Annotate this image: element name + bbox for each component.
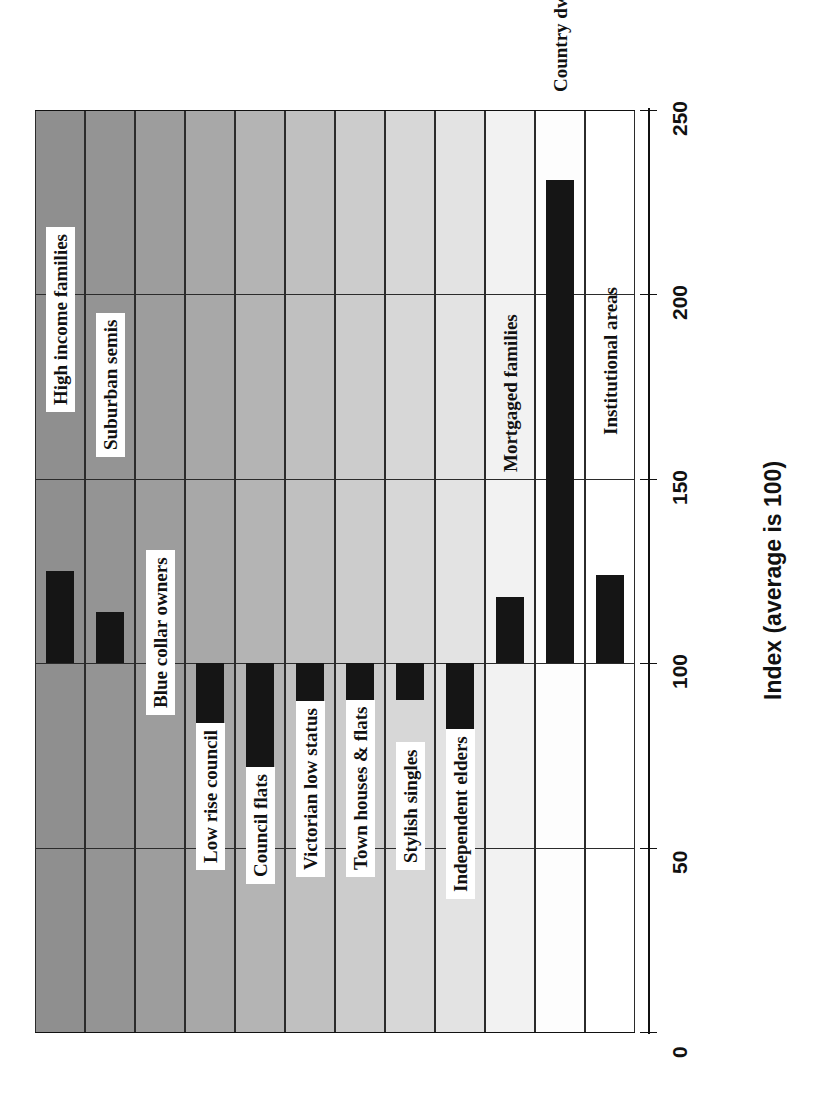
category-band [385,110,435,1032]
category-label-country-dwellers: Country dwellers [546,0,575,99]
category-band [285,110,335,1032]
tick-label-0: 0 [668,998,692,1058]
category-label-council-flats: Council flats [246,768,275,885]
category-label-low-rise-council: Low rise council [196,723,225,870]
category-label-institutional-areas: Institutional areas [596,280,625,442]
gridline-50 [35,848,635,849]
tick-mark-0 [640,1032,657,1033]
category-label-stylish-singles: Stylish singles [396,742,425,870]
category-label-town-houses-flats: Town houses & flats [346,700,375,877]
gridline-150 [35,479,635,480]
category-band [85,110,135,1032]
category-band [485,110,535,1032]
category-label-suburban-semis: Suburban semis [96,312,125,456]
bar-mortgaged-families [496,597,524,663]
bar-stylish-singles [396,663,424,700]
bar-high-income-families [46,571,74,663]
bar-country-dwellers [546,180,574,663]
bar-town-houses-flats [346,663,374,704]
chart-plot-area [35,110,635,1032]
tick-mark-50 [640,848,657,849]
category-band [335,110,385,1032]
category-label-victorian-low-status: Victorian low status [296,701,325,877]
gridline-200 [35,294,635,295]
tick-mark-150 [640,479,657,480]
category-label-mortgaged-families: Mortgaged families [496,307,525,479]
tick-label-200: 200 [668,260,692,320]
gridline-100 [35,663,635,664]
tick-label-150: 150 [668,445,692,505]
category-band [235,110,285,1032]
tick-mark-200 [640,294,657,295]
bar-institutional-areas [596,575,624,664]
bar-suburban-semis [96,612,124,664]
category-label-high-income-families: High income families [46,227,75,412]
tick-label-250: 250 [668,76,692,136]
axis-title: Index (average is 100) [760,461,787,700]
tick-label-50: 50 [668,814,692,874]
category-label-blue-collar-owners: Blue collar owners [146,550,175,715]
value-axis-spine [648,108,650,1034]
tick-mark-100 [640,663,657,664]
plot-frame-bottom [35,1032,635,1033]
category-band [185,110,235,1032]
category-label-independent-elders: Independent elders [446,730,475,900]
tick-label-100: 100 [668,629,692,689]
tick-mark-250 [640,110,657,111]
category-band [585,110,635,1032]
plot-frame-top [35,110,635,111]
